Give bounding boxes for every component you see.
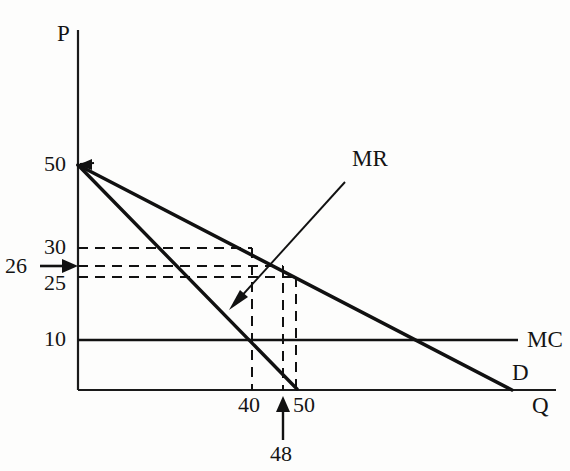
mr-curve-label: MR [352, 147, 388, 170]
demand-curve [78, 165, 512, 390]
x-tick-48: 48 [270, 443, 292, 465]
y-tick-26: 26 [5, 255, 27, 277]
y-tick-10: 10 [44, 328, 66, 350]
mc-curve-label: MC [527, 328, 563, 351]
economics-monopoly-diagram: P Q 50 30 26 25 10 40 50 48 MR MC D [0, 0, 570, 471]
x-tick-40: 40 [238, 394, 260, 416]
x-tick-50: 50 [293, 394, 315, 416]
chart-canvas [0, 0, 570, 471]
mr-curve [78, 165, 297, 389]
x-axis-label: Q [532, 394, 549, 417]
q48-pointer-arrow [276, 396, 290, 440]
y-tick-50: 50 [44, 153, 66, 175]
y-tick-30: 30 [44, 236, 66, 258]
y-axis-label: P [57, 22, 70, 45]
demand-curve-label: D [512, 361, 529, 384]
y-tick-25: 25 [44, 272, 66, 294]
mr-label-leader-arrow [229, 182, 345, 310]
